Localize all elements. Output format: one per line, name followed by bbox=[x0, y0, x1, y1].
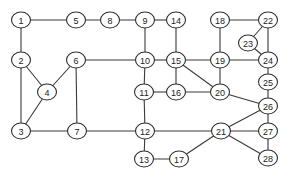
node-label: 26 bbox=[263, 102, 273, 112]
node-24: 24 bbox=[259, 52, 278, 68]
node-6: 6 bbox=[67, 52, 86, 68]
node-27: 27 bbox=[259, 123, 278, 139]
node-label: 14 bbox=[171, 16, 181, 26]
node-14: 14 bbox=[167, 12, 186, 28]
node-label: 25 bbox=[263, 78, 273, 88]
node-12: 12 bbox=[136, 123, 155, 139]
node-15: 15 bbox=[167, 52, 186, 68]
node-20: 20 bbox=[211, 84, 230, 100]
node-label: 4 bbox=[44, 88, 49, 98]
node-1: 1 bbox=[12, 12, 31, 28]
node-19: 19 bbox=[211, 52, 230, 68]
node-25: 25 bbox=[259, 74, 278, 90]
node-8: 8 bbox=[101, 12, 120, 28]
node-11: 11 bbox=[135, 84, 154, 100]
node-label: 1 bbox=[18, 16, 23, 26]
node-label: 15 bbox=[171, 56, 181, 66]
node-17: 17 bbox=[170, 151, 189, 167]
node-3: 3 bbox=[12, 123, 31, 139]
node-label: 23 bbox=[243, 39, 253, 49]
node-9: 9 bbox=[136, 12, 155, 28]
node-label: 9 bbox=[142, 16, 147, 26]
node-label: 16 bbox=[171, 88, 181, 98]
node-label: 12 bbox=[140, 127, 150, 137]
node-22: 22 bbox=[259, 12, 278, 28]
node-26: 26 bbox=[259, 98, 278, 114]
node-10: 10 bbox=[136, 52, 155, 68]
node-21: 21 bbox=[212, 123, 231, 139]
node-label: 24 bbox=[263, 56, 273, 66]
node-13: 13 bbox=[135, 151, 154, 167]
node-label: 3 bbox=[18, 127, 23, 137]
node-label: 2 bbox=[18, 56, 23, 66]
edge-6-7 bbox=[76, 60, 77, 131]
node-label: 7 bbox=[74, 127, 79, 137]
network-graph: 1234567891011121314151617181920212223242… bbox=[0, 0, 286, 175]
node-label: 13 bbox=[139, 155, 149, 165]
node-label: 10 bbox=[140, 56, 150, 66]
node-label: 22 bbox=[263, 16, 273, 26]
node-label: 28 bbox=[263, 154, 273, 164]
node-label: 17 bbox=[174, 155, 184, 165]
node-label: 21 bbox=[216, 127, 226, 137]
node-label: 19 bbox=[215, 56, 225, 66]
node-18: 18 bbox=[211, 12, 230, 28]
node-16: 16 bbox=[167, 84, 186, 100]
node-label: 27 bbox=[263, 127, 273, 137]
node-label: 11 bbox=[139, 88, 148, 98]
node-label: 18 bbox=[215, 16, 225, 26]
node-label: 8 bbox=[107, 16, 112, 26]
node-4: 4 bbox=[38, 84, 57, 100]
node-label: 6 bbox=[73, 56, 78, 66]
node-label: 5 bbox=[73, 16, 78, 26]
node-7: 7 bbox=[68, 123, 87, 139]
node-2: 2 bbox=[12, 52, 31, 68]
node-28: 28 bbox=[259, 150, 278, 166]
node-23: 23 bbox=[239, 35, 258, 51]
node-5: 5 bbox=[67, 12, 86, 28]
node-label: 20 bbox=[215, 88, 225, 98]
